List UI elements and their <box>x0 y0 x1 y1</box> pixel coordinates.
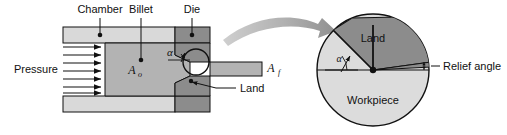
chamber-lower-wall <box>63 96 175 112</box>
detail-die-angle-label: α <box>336 53 342 64</box>
billet-leader-dot <box>139 58 144 63</box>
die-leader-dot <box>190 33 195 38</box>
pressure-arrow-group <box>63 47 101 93</box>
extruded-product <box>210 62 262 76</box>
billet-label: Billet <box>129 3 153 15</box>
figure-canvas: Chamber Billet Die Pressure Land A o A f… <box>0 0 507 135</box>
die-detail-circle: Land Workpiece Relief angle α <box>317 14 501 126</box>
svg-text:o: o <box>138 70 142 79</box>
svg-text:A: A <box>127 63 136 77</box>
die-label: Die <box>184 3 201 15</box>
extrusion-cross-section: Chamber Billet Die Pressure Land A o A f… <box>14 3 282 112</box>
svg-text:A: A <box>266 61 275 75</box>
svg-text:f: f <box>278 68 282 77</box>
chamber-upper-wall <box>63 27 175 43</box>
detail-land-label: Land <box>361 32 385 44</box>
land-label-left: Land <box>240 82 264 94</box>
die-angle-label-left: α <box>167 46 173 58</box>
detail-center-dot <box>370 67 376 73</box>
chamber-leader-dot <box>98 33 103 38</box>
die-lower-block <box>175 96 210 112</box>
chamber-label: Chamber <box>77 3 123 15</box>
final-area-label: A f <box>266 61 282 77</box>
detail-workpiece-label: Workpiece <box>347 94 399 106</box>
pressure-label: Pressure <box>14 63 58 75</box>
relief-angle-label: Relief angle <box>443 60 501 72</box>
detail-callout-arrow <box>223 17 336 46</box>
